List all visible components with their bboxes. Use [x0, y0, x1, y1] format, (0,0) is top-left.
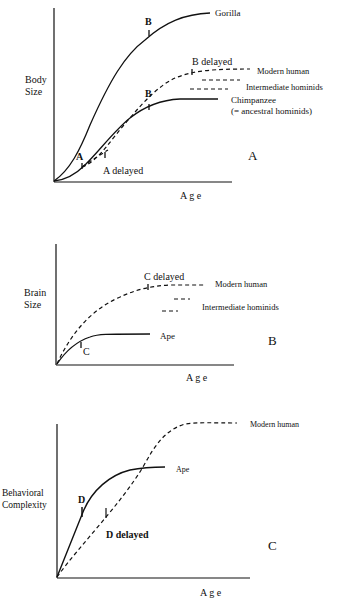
ape-label: Ape: [176, 465, 190, 474]
y-axis-label-line2: Size: [24, 299, 42, 310]
d-label: D: [78, 494, 85, 505]
modern-human-curve: [82, 69, 250, 167]
panel-c-behavioral-complexity: Modern human Ape D D delayed Behavioral …: [2, 420, 299, 598]
x-axis-label: A g e: [180, 190, 202, 201]
c-delayed-label: C delayed: [144, 271, 184, 282]
a-delayed-label: A delayed: [103, 165, 143, 176]
y-axis-label-line1: Brain: [24, 287, 46, 298]
modern-human-curve: [57, 285, 205, 364]
y-axis-label-line2: Size: [25, 86, 43, 97]
intermediate-hominids-label: Intermediate hominids: [202, 302, 279, 312]
y-axis-label-line1: Behavioral: [2, 488, 44, 498]
modern-human-label: Modern human: [257, 66, 310, 76]
b-label-chimp: B: [145, 88, 152, 99]
modern-human-label: Modern human: [215, 279, 268, 289]
panel-b-brain-size: C delayed Modern human Intermediate homi…: [24, 244, 279, 383]
panel-letter: C: [268, 538, 277, 553]
gorilla-label: Gorilla: [215, 8, 241, 18]
x-axis-label: A g e: [200, 587, 222, 598]
d-delayed-label: D delayed: [106, 529, 149, 540]
x-axis-label: A g e: [186, 372, 208, 383]
panel-letter: A: [248, 148, 258, 163]
modern-human-label: Modern human: [250, 420, 299, 429]
ancestral-hominids-label: (= ancestral hominids): [231, 106, 312, 116]
b-delayed-label: B delayed: [192, 56, 232, 67]
ape-curve: [57, 467, 165, 577]
b-label-gorilla: B: [145, 16, 152, 27]
ape-label: Ape: [160, 331, 175, 341]
growth-curves-figure: Gorilla Modern human Intermediate homini…: [0, 0, 338, 610]
panel-letter: B: [268, 333, 277, 348]
intermediate-hominids-label: Intermediate hominids: [246, 82, 323, 92]
y-axis-label-line1: Body: [25, 74, 47, 85]
chimpanzee-label: Chimpanzee: [231, 95, 276, 105]
c-label: C: [83, 346, 90, 357]
a-label: A: [76, 151, 84, 162]
y-axis-label-line2: Complexity: [2, 500, 47, 510]
panel-a-body-size: Gorilla Modern human Intermediate homini…: [25, 8, 323, 201]
